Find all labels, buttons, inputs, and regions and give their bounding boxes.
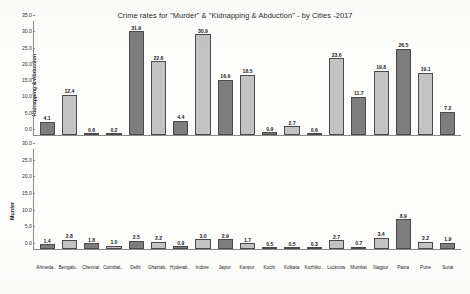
bar-slot: 0.5 xyxy=(259,149,281,249)
bar[interactable] xyxy=(151,61,166,135)
bar[interactable] xyxy=(262,132,277,135)
bar-slot: 4.4 xyxy=(170,21,192,135)
bar[interactable] xyxy=(195,34,210,135)
bar[interactable] xyxy=(307,247,322,249)
bar[interactable] xyxy=(240,243,255,249)
bar[interactable] xyxy=(218,239,233,249)
bar-slot: 2.7 xyxy=(325,149,347,249)
bar[interactable] xyxy=(129,31,144,135)
bar-slot: 22.6 xyxy=(147,21,169,135)
bar-slot: 12.4 xyxy=(58,21,80,135)
bar[interactable] xyxy=(129,241,144,249)
bar-slot: 0.6 xyxy=(303,21,325,135)
x-axis-label: Chennai xyxy=(80,265,102,270)
bar-group-top: 4.112.40.60.231.922.64.430.916.918.50.92… xyxy=(34,21,461,135)
plot-area-bottom: 1.42.81.81.02.52.20.93.02.91.70.50.50.32… xyxy=(33,149,461,250)
bar-value-label: 2.7 xyxy=(333,234,340,240)
bar-slot: 26.5 xyxy=(392,21,414,135)
bar-slot: 7.2 xyxy=(437,21,459,135)
y-top-tick: 0.0 xyxy=(25,126,32,132)
bar[interactable] xyxy=(440,112,455,135)
y-top-tick: 25.0 xyxy=(22,45,32,51)
bar-value-label: 12.4 xyxy=(64,88,74,94)
bar-slot: 2.2 xyxy=(147,149,169,249)
bar[interactable] xyxy=(40,244,55,249)
bar-value-label: 8.9 xyxy=(400,213,407,219)
bar-value-label: 7.2 xyxy=(444,105,451,111)
x-axis-label: Bengalu.. xyxy=(57,265,79,270)
bar-slot: 19.8 xyxy=(370,21,392,135)
x-axis-label: Kanpur xyxy=(236,265,258,270)
bar[interactable] xyxy=(374,238,389,249)
bar[interactable] xyxy=(106,246,121,249)
chart-screenshot: { "chart_data": { "type": "bar", "title"… xyxy=(0,0,470,294)
x-axis-label: Delhi xyxy=(124,265,146,270)
bar[interactable] xyxy=(307,133,322,135)
bar[interactable] xyxy=(240,75,255,135)
x-axis-label: Pune xyxy=(414,265,436,270)
bar[interactable] xyxy=(374,71,389,135)
bar-value-label: 0.7 xyxy=(355,240,362,246)
bar-slot: 1.7 xyxy=(236,149,258,249)
bar[interactable] xyxy=(62,95,77,135)
bar-slot: 8.9 xyxy=(392,149,414,249)
bar[interactable] xyxy=(351,247,366,249)
y-bottom-tick: 20.0 xyxy=(22,173,32,179)
bar[interactable] xyxy=(351,97,366,135)
bar[interactable] xyxy=(195,239,210,249)
bar-value-label: 19.8 xyxy=(376,64,386,70)
x-axis-label: Ghaziab.. xyxy=(147,265,169,270)
bar-value-label: 30.9 xyxy=(198,28,208,34)
bar-value-label: 2.9 xyxy=(222,233,229,239)
bar[interactable] xyxy=(151,242,166,249)
bar-slot: 0.5 xyxy=(281,149,303,249)
bar-value-label: 16.9 xyxy=(220,73,230,79)
bar-value-label: 31.9 xyxy=(131,25,141,31)
bar[interactable] xyxy=(40,122,55,135)
bar-value-label: 1.7 xyxy=(244,237,251,243)
y-bottom-tick: 0.0 xyxy=(25,240,32,246)
x-axis-labels: Ahmeda..Bengalu..ChennaiCoimbat..DelhiGh… xyxy=(33,265,461,270)
y-bottom-tick: 10.0 xyxy=(22,207,32,213)
bar[interactable] xyxy=(173,121,188,135)
bar[interactable] xyxy=(284,247,299,249)
bar[interactable] xyxy=(418,242,433,249)
bar[interactable] xyxy=(329,58,344,135)
y-bottom-tick: 5.0 xyxy=(25,223,32,229)
bar[interactable] xyxy=(418,73,433,135)
bar[interactable] xyxy=(396,49,411,135)
bar[interactable] xyxy=(62,240,77,249)
bar-slot: 2.2 xyxy=(415,149,437,249)
bar-slot: 16.9 xyxy=(214,21,236,135)
bar-value-label: 0.2 xyxy=(110,127,117,133)
y-top-tick: 35.0 xyxy=(22,12,32,18)
bar-slot: 3.0 xyxy=(192,149,214,249)
bar[interactable] xyxy=(284,126,299,135)
bar[interactable] xyxy=(396,219,411,249)
bar-value-label: 0.6 xyxy=(88,127,95,133)
bar[interactable] xyxy=(262,247,277,249)
x-axis-label: Kozhiko.. xyxy=(303,265,325,270)
bar[interactable] xyxy=(218,80,233,135)
bar[interactable] xyxy=(84,133,99,135)
y-axis-label-bottom: Murder xyxy=(9,202,15,220)
bar-value-label: 4.4 xyxy=(177,114,184,120)
x-axis-label: Nagpur xyxy=(370,265,392,270)
plot-area-top: 4.112.40.60.231.922.64.430.916.918.50.92… xyxy=(33,21,461,136)
x-axis-label: Ahmeda.. xyxy=(35,265,57,270)
bar-value-label: 1.4 xyxy=(44,238,51,244)
bar[interactable] xyxy=(440,243,455,249)
bar-value-label: 0.6 xyxy=(311,127,318,133)
bar-slot: 1.9 xyxy=(437,149,459,249)
page-title: Crime rates for "Murder" & "Kidnapping &… xyxy=(0,11,470,20)
bar-slot: 0.9 xyxy=(259,21,281,135)
bar-slot: 11.7 xyxy=(348,21,370,135)
y-top-tick: 30.0 xyxy=(22,28,32,34)
bar-slot: 2.5 xyxy=(125,149,147,249)
bar[interactable] xyxy=(106,133,121,135)
bar[interactable] xyxy=(329,240,344,249)
bar-value-label: 4.1 xyxy=(44,115,51,121)
bar-value-label: 22.6 xyxy=(154,55,164,61)
bar[interactable] xyxy=(173,246,188,249)
bar[interactable] xyxy=(84,243,99,249)
